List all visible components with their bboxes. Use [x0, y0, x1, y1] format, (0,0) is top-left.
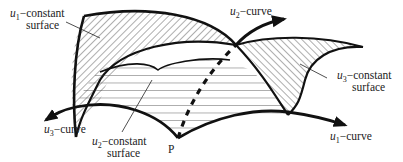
u3-surface-label-line2: surface [352, 81, 385, 93]
point-p-label: P [168, 143, 174, 155]
u3-curve-label: u3−curve [44, 123, 86, 138]
u2-curve-label: u2−curve [230, 5, 272, 20]
u1-curve-label: u1−curve [330, 130, 372, 145]
curvilinear-coordinates-diagram: u1−constant surface u2−curve u3−constant… [0, 0, 403, 162]
u2-surface-label-line2: surface [107, 147, 140, 159]
u1-surface-label-line2: surface [26, 19, 59, 31]
